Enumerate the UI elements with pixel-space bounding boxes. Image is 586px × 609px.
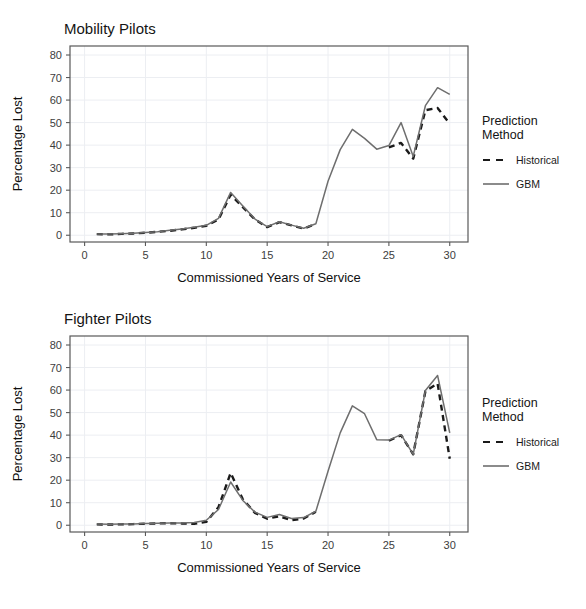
chart-title-mobility: Mobility Pilots: [64, 20, 156, 37]
legend-item-gbm[interactable]: GBM: [482, 174, 586, 194]
facet-mobility-pilots: Mobility Pilots 010203040506070800510152…: [0, 14, 586, 304]
solid-line-icon: [482, 459, 510, 473]
y-tick-label: 50: [50, 117, 62, 129]
y-axis-title: Percentage Lost: [10, 386, 25, 481]
legend-fighter: Prediction Method Historical GBM: [482, 396, 586, 480]
y-tick-label: 70: [50, 362, 62, 374]
chart-svg-fighter: 01020304050607080051015202530Commissione…: [0, 328, 476, 578]
legend-item-historical[interactable]: Historical: [482, 432, 586, 452]
x-axis-title: Commissioned Years of Service: [177, 560, 361, 575]
legend-label-historical: Historical: [516, 436, 559, 448]
y-tick-label: 70: [50, 72, 62, 84]
x-tick-label: 25: [383, 539, 395, 551]
legend-title-line2: Method: [482, 128, 586, 142]
y-tick-label: 60: [50, 384, 62, 396]
y-tick-label: 10: [50, 497, 62, 509]
plot-area-fighter: 01020304050607080051015202530Commissione…: [0, 328, 476, 578]
x-tick-label: 10: [200, 539, 212, 551]
legend-label-historical: Historical: [516, 154, 559, 166]
legend-label-gbm: GBM: [516, 460, 540, 472]
y-tick-label: 80: [50, 339, 62, 351]
x-tick-label: 0: [82, 249, 88, 261]
y-tick-label: 10: [50, 207, 62, 219]
legend-title-line1: Prediction: [482, 114, 586, 128]
x-tick-label: 0: [82, 539, 88, 551]
chart-page: Mobility Pilots 010203040506070800510152…: [0, 0, 586, 609]
y-tick-label: 40: [50, 139, 62, 151]
legend-title-line2: Method: [482, 410, 586, 424]
x-tick-label: 30: [444, 249, 456, 261]
x-tick-label: 20: [322, 249, 334, 261]
plot-area-mobility: 01020304050607080051015202530Commissione…: [0, 38, 476, 288]
cropped-caption-text: [0, 0, 586, 5]
x-tick-label: 10: [200, 249, 212, 261]
x-tick-label: 25: [383, 249, 395, 261]
y-axis-title: Percentage Lost: [10, 96, 25, 191]
chart-title-fighter: Fighter Pilots: [64, 310, 152, 327]
y-tick-label: 60: [50, 94, 62, 106]
x-tick-label: 15: [261, 539, 273, 551]
solid-line-icon: [482, 177, 510, 191]
x-axis-title: Commissioned Years of Service: [177, 270, 361, 285]
y-tick-label: 20: [50, 474, 62, 486]
legend-label-gbm: GBM: [516, 178, 540, 190]
y-tick-label: 80: [50, 49, 62, 61]
dashed-line-icon: [482, 435, 510, 449]
legend-items-mobility: Historical GBM: [482, 150, 586, 194]
y-tick-label: 40: [50, 429, 62, 441]
dashed-line-icon: [482, 153, 510, 167]
y-tick-label: 0: [56, 519, 62, 531]
chart-svg-mobility: 01020304050607080051015202530Commissione…: [0, 38, 476, 288]
legend-items-fighter: Historical GBM: [482, 432, 586, 476]
y-tick-label: 0: [56, 229, 62, 241]
legend-title-line1: Prediction: [482, 396, 586, 410]
y-tick-label: 50: [50, 407, 62, 419]
x-tick-label: 5: [142, 249, 148, 261]
y-tick-label: 20: [50, 184, 62, 196]
x-tick-label: 15: [261, 249, 273, 261]
y-tick-label: 30: [50, 162, 62, 174]
facet-fighter-pilots: Fighter Pilots 0102030405060708005101520…: [0, 304, 586, 609]
legend-item-historical[interactable]: Historical: [482, 150, 586, 170]
x-tick-label: 5: [142, 539, 148, 551]
legend-mobility: Prediction Method Historical GBM: [482, 114, 586, 198]
x-tick-label: 20: [322, 539, 334, 551]
legend-item-gbm[interactable]: GBM: [482, 456, 586, 476]
y-tick-label: 30: [50, 452, 62, 464]
x-tick-label: 30: [444, 539, 456, 551]
